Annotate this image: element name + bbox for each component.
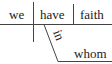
object-word: faith — [80, 7, 104, 22]
preposition-word: in — [50, 28, 68, 43]
sentence-diagram: we have faith in whom — [0, 0, 112, 64]
subject-word: we — [9, 7, 24, 22]
prepositional-object-word: whom — [74, 46, 107, 61]
verb-word: have — [40, 7, 65, 22]
